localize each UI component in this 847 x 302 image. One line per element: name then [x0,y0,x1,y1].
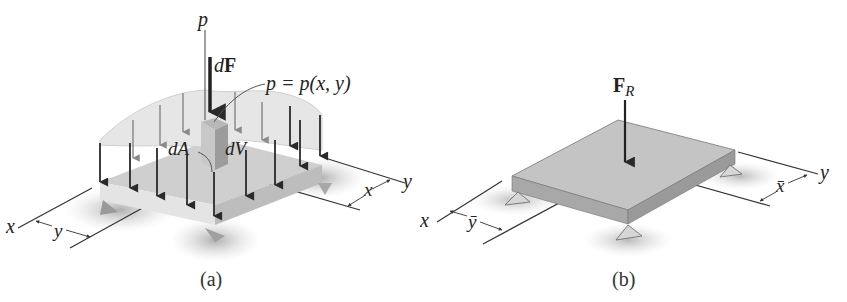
y-axis-label: y [401,170,412,193]
pressure-axis-label: p [196,8,208,31]
dimension-xbar-label: x̄ [775,175,785,196]
panel-a-distributed-load: p dF p = p(x, y) dA dV x y y x (a) [0,0,420,302]
pressure-function-label: p = p(x, y) [264,72,351,95]
dimension-y-label: y [52,220,63,241]
panel-b-resultant-force: FR x y ȳ x̄ (b) [420,0,847,302]
dA-label: dA [168,138,190,159]
y-axis-label: y [818,161,829,184]
dimension-x-label: x [363,179,373,200]
caption-b: (b) [612,268,635,291]
caption-a: (a) [200,268,222,291]
resultant-force-diagram: FR x y ȳ x̄ (b) [420,0,847,302]
dimension-ybar-label: ȳ [466,211,477,232]
dF-label: dF [214,54,236,76]
x-axis-label: x [420,209,429,231]
distributed-load-diagram: p dF p = p(x, y) dA dV x y y x (a) [0,0,420,302]
dV-label: dV [225,138,249,159]
resultant-force-label: FR [613,74,634,99]
x-axis-label: x [5,215,15,237]
